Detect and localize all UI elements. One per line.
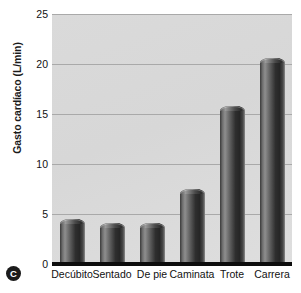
x-axis-tick-label: Decúbito [51, 268, 92, 280]
bar-cap [220, 106, 245, 111]
bar [60, 219, 85, 264]
bar-cap [100, 223, 125, 228]
gridline [52, 164, 292, 165]
y-axis-tick-label: 20 [26, 58, 48, 70]
x-axis-tick-labels: DecúbitoSentadoDe pieCaminataTroteCarrer… [52, 268, 292, 286]
bar [180, 189, 205, 264]
bar [220, 106, 245, 264]
y-axis-tick-label: 0 [26, 258, 48, 270]
bar [100, 223, 125, 264]
bar [260, 58, 285, 264]
x-axis-tick-label: Trote [220, 268, 244, 280]
y-axis-tick-label: 10 [26, 158, 48, 170]
y-axis-tick-label: 5 [26, 208, 48, 220]
bar-cap [140, 223, 165, 228]
bar-cap [260, 58, 285, 63]
bar-cap [180, 189, 205, 194]
gridline [52, 14, 292, 15]
x-axis-tick-label: De pie [137, 268, 167, 280]
x-axis-tick-label: Sentado [92, 268, 131, 280]
panel-label-badge: C [6, 266, 21, 281]
cardiac-output-bar-chart-figure: Gasto cardíaco (L/min) 0510152025 Decúbi… [0, 0, 301, 293]
gridline [52, 214, 292, 215]
gridline [52, 64, 292, 65]
x-axis-tick-label: Carrera [254, 268, 290, 280]
bar-cap [60, 219, 85, 224]
y-axis-tick-labels: 0510152025 [20, 0, 48, 293]
plot-area [52, 14, 292, 264]
bar [140, 223, 165, 264]
gridline [52, 114, 292, 115]
x-axis-line [52, 262, 292, 266]
y-axis-tick-label: 15 [26, 108, 48, 120]
x-axis-tick-label: Caminata [170, 268, 215, 280]
y-axis-tick-label: 25 [26, 8, 48, 20]
